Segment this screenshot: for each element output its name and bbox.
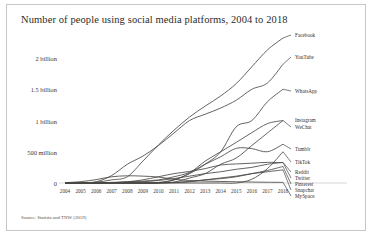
x-axis-tick-label: 2006: [91, 188, 101, 194]
x-axis-tick-label: 2014: [216, 188, 226, 194]
series-line-facebook: [65, 38, 283, 183]
x-axis-tick-label: 2008: [122, 188, 132, 194]
x-axis-tick-label: 2017: [262, 188, 272, 194]
chart-title: Number of people using social media plat…: [21, 14, 288, 25]
y-axis-tick-label: 2 billion: [21, 55, 57, 62]
leader-line-youtube: [283, 57, 291, 64]
y-axis-tick-label: 0: [21, 180, 57, 187]
chart-card: Number of people using social media plat…: [6, 4, 366, 231]
y-axis-tick-label: 1.5 billion: [21, 86, 57, 93]
x-axis-tick-label: 2016: [247, 188, 257, 194]
series-line-pinterest: [65, 166, 283, 183]
series-label-myspace: MySpace: [295, 193, 315, 199]
series-label-youtube: YouTube: [295, 54, 314, 60]
leader-line-wechat: [283, 121, 291, 128]
x-axis-tick-label: 2018: [278, 188, 288, 194]
leader-line-facebook: [283, 35, 291, 38]
x-axis-tick-label: 2005: [75, 188, 85, 194]
leader-line-tiktok: [283, 152, 291, 162]
series-label-whatsapp: WhatsApp: [295, 88, 317, 94]
x-axis-tick-label: 2012: [184, 188, 194, 194]
x-axis-tick-label: 2010: [153, 188, 163, 194]
x-axis-tick-label: 2015: [231, 188, 241, 194]
series-label-tiktok: TikTok: [295, 159, 310, 165]
series-line-youtube: [65, 64, 283, 183]
plot-area: 0500 million1 billion1.5 billion2 billio…: [21, 31, 353, 201]
x-axis-tick-label: 2004: [60, 188, 70, 194]
series-line-whatsapp: [65, 89, 283, 183]
y-axis-tick-label: 1 billion: [21, 117, 57, 124]
x-axis-tick-label: 2013: [200, 188, 210, 194]
x-axis-tick-label: 2009: [138, 188, 148, 194]
series-label-instagram: Instagram: [295, 117, 316, 123]
source-note: Source: Statista and TNW (2019): [21, 215, 86, 220]
y-axis-tick-label: 500 million: [21, 148, 57, 155]
leader-line-whatsapp: [283, 89, 291, 91]
x-axis-tick-label: 2011: [169, 188, 179, 194]
leader-line-tumblr: [283, 144, 291, 149]
leader-line-snapchat: [283, 170, 291, 190]
series-label-tumblr: Tumblr: [295, 146, 310, 152]
x-axis-tick-label: 2007: [107, 188, 117, 194]
series-label-wechat: WeChat: [295, 124, 312, 130]
series-label-facebook: Facebook: [295, 32, 315, 38]
